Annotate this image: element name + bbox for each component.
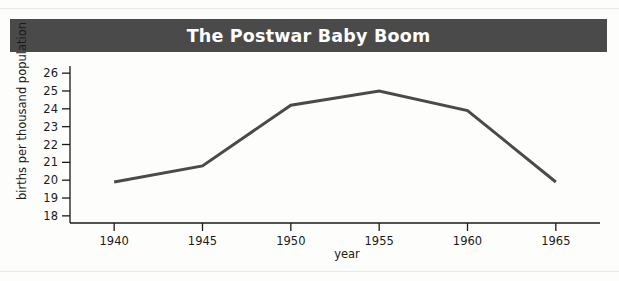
- y-axis: 181920212223242526: [43, 66, 70, 223]
- y-tick-label: 21: [43, 155, 58, 169]
- data-series-births: [114, 91, 556, 182]
- y-tick-label: 22: [43, 138, 58, 152]
- y-tick-label: 23: [43, 120, 58, 134]
- chart-plot-area: 181920212223242526 194019451950195519601…: [0, 0, 619, 281]
- x-tick-label: 1965: [541, 234, 570, 248]
- x-axis: 194019451950195519601965: [70, 223, 600, 248]
- x-tick-label: 1955: [365, 234, 394, 248]
- y-tick-label: 18: [43, 209, 58, 223]
- x-tick-label: 1940: [100, 234, 129, 248]
- x-tick-label: 1950: [276, 234, 305, 248]
- x-tick-label: 1960: [453, 234, 482, 248]
- y-tick-label: 24: [43, 102, 58, 116]
- y-tick-label: 20: [43, 173, 58, 187]
- y-tick-label: 26: [43, 66, 58, 80]
- x-axis-label: year: [334, 247, 360, 261]
- x-tick-label: 1945: [188, 234, 217, 248]
- y-tick-label: 25: [43, 84, 58, 98]
- chart-figure: The Postwar Baby Boom 181920212223242526…: [0, 0, 619, 281]
- y-tick-label: 19: [43, 191, 58, 205]
- y-axis-label: births per thousand population: [15, 22, 29, 200]
